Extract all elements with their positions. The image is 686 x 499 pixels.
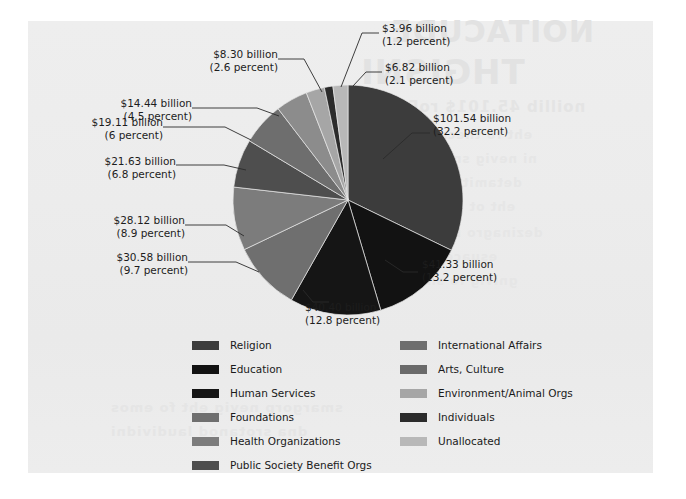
callout-amount: $3.96 billion [382,22,450,35]
leader-line-international [163,127,251,140]
callout-percent: (4.5 percent) [82,110,192,123]
callout-environment: $8.30 billion (2.6 percent) [168,48,278,74]
legend-item[interactable]: Arts, Culture [400,357,573,381]
leader-line-unallocated [353,72,382,86]
callout-percent: (32.2 percent) [433,125,511,138]
legend-item[interactable]: Foundations [192,405,372,429]
legend-item[interactable]: Public Society Benefit Orgs [192,453,372,477]
callout-amount: $28.12 billion [75,214,185,227]
legend-item-label: Arts, Culture [438,363,504,375]
legend-item-label: Education [230,363,282,375]
callout-percent: (2.1 percent) [385,74,453,87]
callout-percent: (6.8 percent) [66,168,176,181]
legend-item[interactable]: Religion [192,333,372,357]
legend-column-right: International AffairsArts, CultureEnviro… [400,333,573,453]
callout-percent: (12.8 percent) [305,314,380,327]
legend-swatch-icon [192,389,219,398]
callout-percent: (1.2 percent) [382,35,450,48]
legend-swatch-icon [192,437,219,446]
callout-amount: $40.40 billion [305,301,380,314]
callout-amount: $21.63 billion [66,155,176,168]
callout-percent: (2.6 percent) [168,61,278,74]
callout-percent: (6 percent) [53,129,163,142]
leader-line-health [185,225,244,236]
callout-foundations: $30.58 billion (9.7 percent) [78,251,188,277]
leader-line-arts [192,108,279,116]
leader-line-public-society [176,165,246,170]
callout-individuals: $3.96 billion (1.2 percent) [382,22,450,48]
legend-item[interactable]: Unallocated [400,429,573,453]
legend-item-label: Public Society Benefit Orgs [230,459,372,471]
legend-swatch-icon [192,413,219,422]
legend-swatch-icon [192,365,219,374]
callout-percent: (13.2 percent) [422,271,497,284]
callout-arts: $14.44 billion (4.5 percent) [82,97,192,123]
callout-education: $41.33 billion (13.2 percent) [422,258,497,284]
callout-amount: $6.82 billion [385,61,453,74]
legend-item-label: International Affairs [438,339,542,351]
callout-amount: $41.33 billion [422,258,497,271]
legend-item-label: Religion [230,339,272,351]
callout-amount: $8.30 billion [168,48,278,61]
legend-item-label: Foundations [230,411,294,423]
callout-health: $28.12 billion (8.9 percent) [75,214,185,240]
pie-chart-figure: $101.54 billion (32.2 percent) $41.33 bi… [0,0,686,499]
callout-human-services: $40.40 billion (12.8 percent) [305,301,380,327]
callout-public-society: $21.63 billion (6.8 percent) [66,155,176,181]
legend-item-label: Health Organizations [230,435,340,447]
callout-percent: (9.7 percent) [78,264,188,277]
legend-item[interactable]: Human Services [192,381,372,405]
legend-item[interactable]: Environment/Animal Orgs [400,381,573,405]
legend-item[interactable]: International Affairs [400,333,573,357]
legend-swatch-icon [400,389,427,398]
legend-item[interactable]: Health Organizations [192,429,372,453]
callout-unallocated: $6.82 billion (2.1 percent) [385,61,453,87]
callout-religion: $101.54 billion (32.2 percent) [433,112,511,138]
legend-item-label: Unallocated [438,435,500,447]
callout-percent: (8.9 percent) [75,227,185,240]
callout-amount: $14.44 billion [82,97,192,110]
legend-item-label: Human Services [230,387,315,399]
legend-swatch-icon [400,341,427,350]
legend-swatch-icon [400,437,427,446]
legend-swatch-icon [192,341,219,350]
legend-item-label: Environment/Animal Orgs [438,387,573,399]
legend-item[interactable]: Individuals [400,405,573,429]
callout-amount: $101.54 billion [433,112,511,125]
callout-amount: $30.58 billion [78,251,188,264]
legend-swatch-icon [400,413,427,422]
legend-swatch-icon [192,461,219,470]
leader-line-environment [278,59,322,92]
legend-column-left: ReligionEducationHuman ServicesFoundatio… [192,333,372,477]
legend-item[interactable]: Education [192,357,372,381]
legend-swatch-icon [400,365,427,374]
legend-item-label: Individuals [438,411,495,423]
leader-line-foundations [188,262,259,272]
